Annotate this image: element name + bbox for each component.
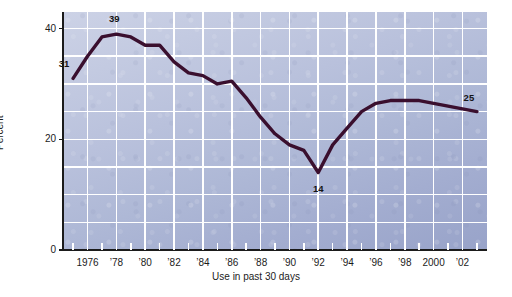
x-tick-label: ’80 [139,258,152,268]
x-tick-label: 1976 [76,258,98,268]
x-tick-label: ’90 [283,258,296,268]
x-tick-label: ’82 [167,258,180,268]
y-tick-label: 40 [20,24,56,34]
data-label: 25 [464,93,475,103]
vertical-gridlines [88,12,463,250]
x-tick-label: ’94 [340,258,353,268]
data-series-group [73,34,477,172]
y-axis-title: Percent [0,116,5,150]
x-tick-label: ’86 [225,258,238,268]
x-tick-label: ’96 [369,258,382,268]
x-axis-title: Use in past 30 days [0,272,512,282]
chart-canvas [63,12,487,250]
y-tick-label: 0 [20,245,56,255]
y-tick-label: 20 [20,134,56,144]
data-label: 14 [313,184,324,194]
x-tick-label: ’84 [196,258,209,268]
chart-figure: 02040 1976’78’80’82’84’86’88’90’92’94’96… [0,0,512,297]
data-label: 31 [59,59,70,69]
x-tick-label: ’88 [254,258,267,268]
x-tick-label: ’98 [398,258,411,268]
horizontal-gridlines [63,29,487,223]
x-tick-label: ’78 [110,258,123,268]
x-tick-label: ’02 [456,258,469,268]
x-tick-label: ’92 [312,258,325,268]
data-label: 39 [109,14,120,24]
x-tick-label: 2000 [423,258,445,268]
plot-area [63,12,487,250]
